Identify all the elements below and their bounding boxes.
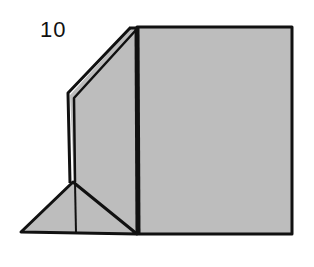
main-fold-line [137,27,138,234]
triangle-center-line [75,182,76,233]
right-panel [137,27,292,234]
origami-fold-diagram [0,0,314,267]
